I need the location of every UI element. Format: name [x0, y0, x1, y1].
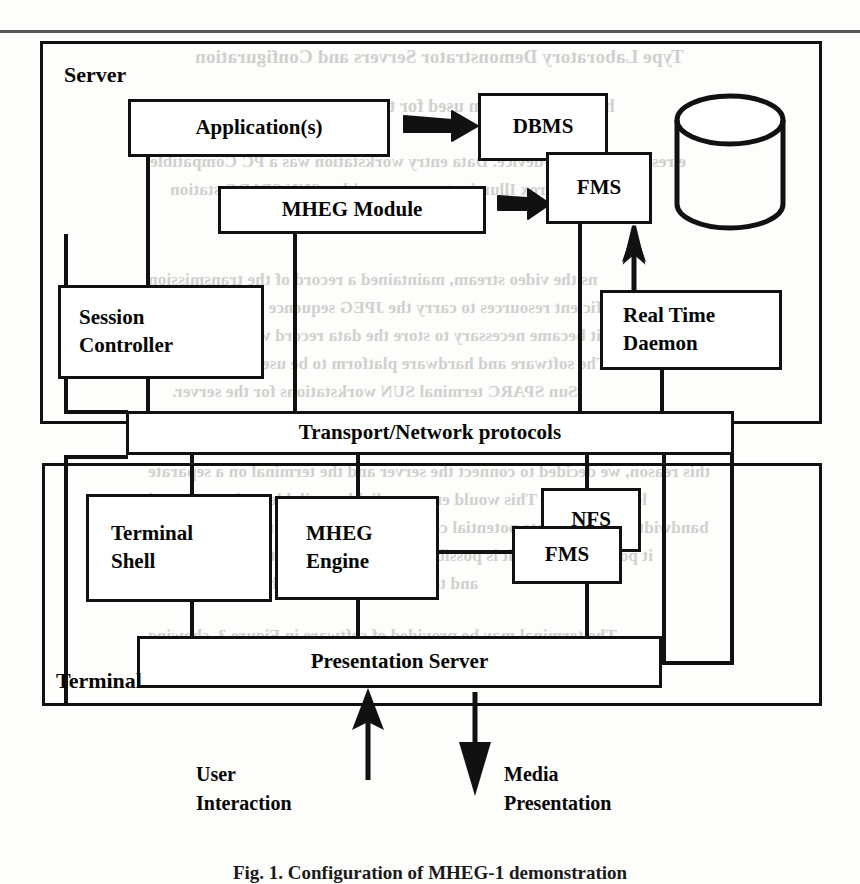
box-mheg-engine-label: MHEG Engine — [296, 520, 383, 575]
box-session-controller-label: Session Controller — [69, 304, 183, 359]
box-mheg-module-label: MHEG Module — [272, 196, 433, 224]
database-cylinder-icon — [670, 92, 790, 234]
connector-server-left-to-transport — [64, 410, 128, 414]
box-fms-terminal-label: FMS — [535, 541, 599, 569]
connector-mheg-module-to-transport — [293, 232, 297, 414]
connector-fms-terminal-to-presentation — [585, 580, 589, 638]
box-mheg-module[interactable]: MHEG Module — [218, 186, 486, 234]
connector-transport-right-spine — [730, 443, 734, 665]
figure-page: Type Laboratory Demonstrator Servers and… — [0, 0, 860, 884]
terminal-container-label: Terminal — [56, 668, 142, 694]
figure-caption: Fig. 1. Configuration of MHEG-1 demonstr… — [0, 862, 860, 884]
connector-nfs-right-spine — [662, 455, 666, 661]
box-fms-server-label: FMS — [567, 174, 631, 202]
arrow-media-presentation — [459, 692, 491, 796]
connector-transport-to-nfs — [585, 455, 589, 489]
connector-transport-to-terminal-shell — [190, 455, 194, 495]
box-fms-server[interactable]: FMS — [546, 152, 652, 224]
box-presentation-server-label: Presentation Server — [301, 648, 498, 676]
box-application[interactable]: Application(s) — [128, 99, 390, 157]
connector-rtd-to-transport — [660, 367, 664, 414]
box-real-time-daemon-label: Real Time Daemon — [613, 302, 725, 357]
connector-fms-server-to-transport — [578, 222, 582, 414]
box-dbms[interactable]: DBMS — [478, 93, 608, 161]
connector-mheg-engine-to-fms-terminal — [437, 550, 514, 554]
box-terminal-shell-label: Terminal Shell — [101, 520, 203, 575]
page-top-rule — [0, 30, 860, 33]
box-presentation-server[interactable]: Presentation Server — [137, 636, 662, 688]
box-transport-protocols-label: Transport/Network protocols — [289, 419, 571, 447]
connector-terminal-shell-to-presentation — [190, 602, 194, 638]
box-session-controller[interactable]: Session Controller — [58, 285, 264, 379]
flow-label-media-presentation: Media Presentation — [504, 760, 611, 818]
box-transport-protocols[interactable]: Transport/Network protocols — [126, 411, 734, 455]
connector-right-spine-to-presentation — [662, 661, 734, 665]
box-real-time-daemon[interactable]: Real Time Daemon — [600, 290, 782, 370]
connector-transport-to-mheg-engine — [356, 455, 360, 497]
box-fms-terminal[interactable]: FMS — [512, 526, 622, 584]
connector-mheg-engine-to-presentation — [356, 600, 360, 638]
connector-terminal-left-top — [64, 455, 128, 459]
box-mheg-engine[interactable]: MHEG Engine — [275, 496, 439, 600]
server-container-label: Server — [64, 62, 126, 88]
box-application-label: Application(s) — [185, 114, 332, 142]
box-dbms-label: DBMS — [503, 113, 584, 141]
flow-label-user-interaction: User Interaction — [196, 760, 292, 818]
connector-application-to-session — [146, 155, 150, 288]
box-terminal-shell[interactable]: Terminal Shell — [86, 494, 272, 602]
